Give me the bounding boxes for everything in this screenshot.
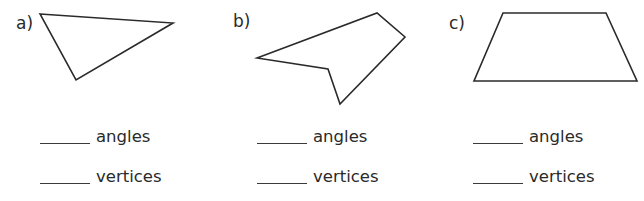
answer-blank-angles-b[interactable] — [257, 143, 307, 144]
answer-word-angles-b: angles — [313, 127, 367, 147]
item-label-b: b) — [233, 11, 250, 31]
answer-blank-vertices-c[interactable] — [473, 183, 523, 184]
answer-blank-angles-c[interactable] — [473, 143, 523, 144]
answer-row-vertices-b: vertices — [257, 165, 379, 187]
answer-blank-vertices-a[interactable] — [40, 183, 90, 184]
answer-word-vertices-c: vertices — [529, 167, 595, 187]
answer-row-vertices-a: vertices — [40, 165, 162, 187]
trapezoid-shape — [474, 13, 637, 81]
pentagon-shape — [257, 13, 405, 104]
answer-blank-angles-a[interactable] — [40, 143, 90, 144]
item-label-c: c) — [449, 13, 465, 33]
item-label-a: a) — [16, 13, 33, 33]
answer-word-vertices-a: vertices — [96, 167, 162, 187]
answer-row-angles-a: angles — [40, 125, 150, 147]
answer-row-angles-b: angles — [257, 125, 367, 147]
answer-blank-vertices-b[interactable] — [257, 183, 307, 184]
answer-word-vertices-b: vertices — [313, 167, 379, 187]
triangle-shape — [40, 14, 173, 80]
answer-row-vertices-c: vertices — [473, 165, 595, 187]
answer-word-angles-c: angles — [529, 127, 583, 147]
answer-row-angles-c: angles — [473, 125, 583, 147]
answer-word-angles-a: angles — [96, 127, 150, 147]
